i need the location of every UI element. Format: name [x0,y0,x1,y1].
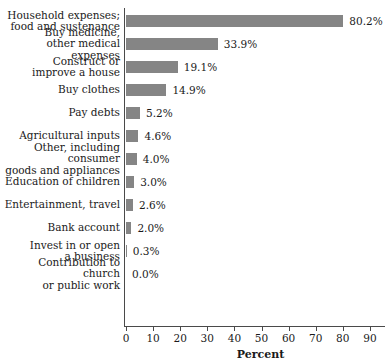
x-axis-title-text: Percent [237,348,285,361]
x-axis-line [124,326,385,327]
bar [126,107,140,119]
bar-value-label: 2.6% [139,199,166,211]
x-tick-label: 10 [146,332,159,344]
x-tick-label: 30 [201,332,214,344]
category-label: Education of children [0,176,120,188]
bar [126,15,343,27]
bar-value-label: 4.6% [144,130,171,142]
bar-row: Construct or improve a house19.1% [0,55,389,78]
bar-row: Entertainment, travel2.6% [0,193,389,216]
bar-row: Contribution to church or public work0.0… [0,262,389,285]
x-tick [316,327,317,331]
plot-area: Household expenses; food and sustenance8… [0,0,389,363]
x-tick-label: 40 [228,332,241,344]
bar [126,153,137,165]
bar-row: Buy clothes14.9% [0,78,389,101]
x-tick [126,327,127,331]
bar-value-label: 33.9% [224,38,257,50]
x-tick-label: 0 [123,332,130,344]
bar [126,84,166,96]
category-label: Construct or improve a house [0,55,120,78]
category-label: Pay debts [0,107,120,119]
x-tick-label: 80 [336,332,349,344]
bar-rows: Household expenses; food and sustenance8… [0,9,389,285]
x-tick [289,327,290,331]
x-tick [180,327,181,331]
x-tick-label: 70 [309,332,322,344]
bar-value-label: 2.0% [137,222,164,234]
bar-row: Education of children3.0% [0,170,389,193]
bar-row: Buy medicine, other medical expenses33.9… [0,32,389,55]
x-axis-title: Percent [0,348,389,361]
x-tick [262,327,263,331]
category-label: Contribution to church or public work [0,256,120,291]
bar [126,38,218,50]
category-label: Buy clothes [0,84,120,96]
bar [126,61,178,73]
bar [126,245,127,257]
bar [126,199,133,211]
x-tick [370,327,371,331]
bar-value-label: 14.9% [172,84,205,96]
bar-row: Pay debts5.2% [0,101,389,124]
bar-value-label: 4.0% [143,153,170,165]
bar-chart: Household expenses; food and sustenance8… [0,0,389,363]
bar-row: Bank account2.0% [0,216,389,239]
bar-value-label: 5.2% [146,107,173,119]
category-label: Bank account [0,222,120,234]
bar [126,222,131,234]
x-tick-label: 90 [363,332,376,344]
bar-value-label: 0.3% [133,245,160,257]
x-tick [234,327,235,331]
x-tick [343,327,344,331]
x-tick-label: 20 [174,332,187,344]
bar-value-label: 19.1% [184,61,217,73]
bar [126,130,138,142]
x-tick-label: 50 [255,332,268,344]
bar [126,176,134,188]
bar-row: Other, including consumer goods and appl… [0,147,389,170]
bar-value-label: 0.0% [132,268,159,280]
x-tick [207,327,208,331]
bar-value-label: 80.2% [349,15,382,27]
x-tick-label: 60 [282,332,295,344]
category-label: Entertainment, travel [0,199,120,211]
x-tick [153,327,154,331]
bar-value-label: 3.0% [140,176,167,188]
